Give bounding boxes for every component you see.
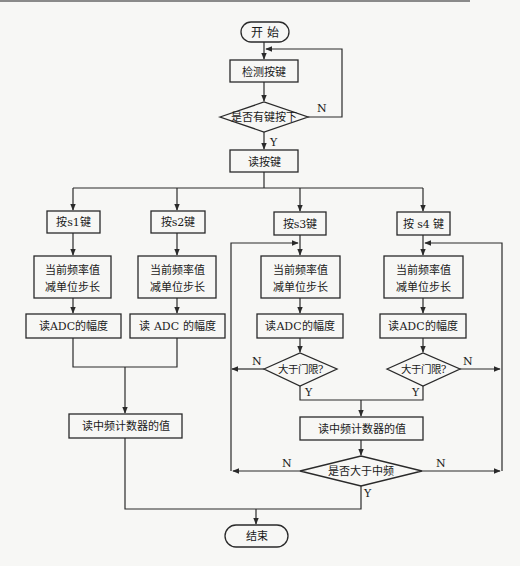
above-if-label: 是否大于中频 [328,464,394,478]
read-key-label: 读按键 [248,155,281,169]
s3-threshold-yes-label: Y [304,386,313,399]
end-label: 结束 [246,530,268,543]
key-pressed-no-label: N [317,102,327,115]
s2-adc-box: 读 ADC 的幅度 [130,314,225,338]
s1-freq-line2: 减单位步长 [45,280,100,294]
s4-adc-label: 读ADC的幅度 [388,319,457,333]
s3-threshold-decision: 大于门限? [264,353,337,386]
s3-adc-label: 读ADC的幅度 [265,319,334,333]
s4-threshold-no-label: N [463,355,473,368]
s4-adc-box: 读ADC的幅度 [380,314,466,338]
s3-key-label: 按s3键 [283,217,318,231]
left-counter-label: 读中频计数器的值 [82,419,170,433]
s3-key-box: 按s3键 [274,212,326,235]
s4-threshold-yes-label: Y [411,386,420,399]
s4-freq-box: 当前频率值 减单位步长 [384,256,463,298]
s1-freq-box: 当前频率值 减单位步长 [34,256,111,298]
above-if-no-right-label: N [436,457,446,470]
read-key-box: 读按键 [230,150,298,172]
right-counter-box: 读中频计数器的值 [300,417,423,440]
s3-adc-box: 读ADC的幅度 [257,314,343,338]
s2-key-label: 按s2键 [161,215,196,229]
s4-freq-line1: 当前频率值 [396,263,451,277]
above-if-decision: 是否大于中频 [300,456,422,486]
key-pressed-label: 是否有键按下 [231,110,297,124]
s1-key-label: 按s1键 [56,215,91,229]
s4-threshold-label: 大于门限? [401,363,447,375]
s3-freq-line1: 当前频率值 [273,263,328,277]
s1-key-box: 按s1键 [47,211,100,233]
s2-freq-line1: 当前频率值 [150,263,205,277]
end-terminal: 结束 [225,525,288,547]
left-counter-box: 读中频计数器的值 [69,414,182,438]
s4-key-label: 按 s4 键 [403,217,445,231]
s2-freq-line2: 减单位步长 [150,280,205,294]
above-if-no-left-label: N [282,457,292,470]
flowchart: 开 始 检测按键 是否有键按下 N Y 读按键 按s1键 按s2键 按s3键 按… [0,0,520,566]
s4-key-box: 按 s4 键 [397,212,450,235]
detect-key-label: 检测按键 [242,65,286,79]
right-counter-label: 读中频计数器的值 [318,422,406,436]
key-pressed-yes-label: Y [269,136,278,149]
s2-freq-box: 当前频率值 减单位步长 [138,256,216,298]
s2-adc-label: 读 ADC 的幅度 [139,319,215,333]
detect-key-box: 检测按键 [230,60,298,82]
start-label: 开 始 [251,26,279,40]
s1-adc-box: 读ADC的幅度 [26,314,121,338]
start-terminal: 开 始 [241,22,289,42]
s1-freq-line1: 当前频率值 [45,263,100,277]
s2-key-box: 按s2键 [151,211,205,233]
s1-adc-label: 读ADC的幅度 [39,319,108,333]
s3-threshold-no-label: N [252,355,262,368]
edge-threshold-yes-merge [300,386,423,400]
s3-freq-box: 当前频率值 减单位步长 [261,256,340,298]
s4-freq-line2: 减单位步长 [396,280,451,294]
s4-threshold-decision: 大于门限? [387,353,460,386]
s3-freq-line2: 减单位步长 [273,280,328,294]
edge-s1-s2-merge [73,338,177,367]
above-if-yes-label: Y [363,487,372,500]
key-pressed-decision: 是否有键按下 [220,102,308,132]
s3-threshold-label: 大于门限? [278,363,324,375]
